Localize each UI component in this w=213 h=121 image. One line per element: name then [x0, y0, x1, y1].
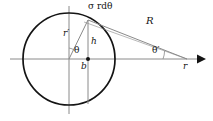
distance-R-line [88, 20, 187, 59]
theta-prime-angle-arc [163, 51, 165, 59]
diagram-svg [0, 0, 213, 121]
wedge-edge-line [84, 22, 187, 59]
label-height-h: h [91, 37, 97, 46]
label-axis-r: r [183, 62, 187, 71]
label-surface-element: σ rdθ [88, 2, 113, 11]
label-angle-theta: θ [74, 46, 79, 55]
label-angle-theta-prime: θ′ [152, 46, 159, 55]
label-distance-R: R [146, 16, 154, 26]
horizontal-axis-group [10, 55, 206, 64]
axis-arrowhead-icon [197, 55, 206, 64]
label-radius-rprime: r′ [63, 29, 69, 38]
label-base-b: b [81, 62, 87, 71]
figure-canvas: σ rdθ R r′ h θ θ′ b r [0, 0, 213, 121]
